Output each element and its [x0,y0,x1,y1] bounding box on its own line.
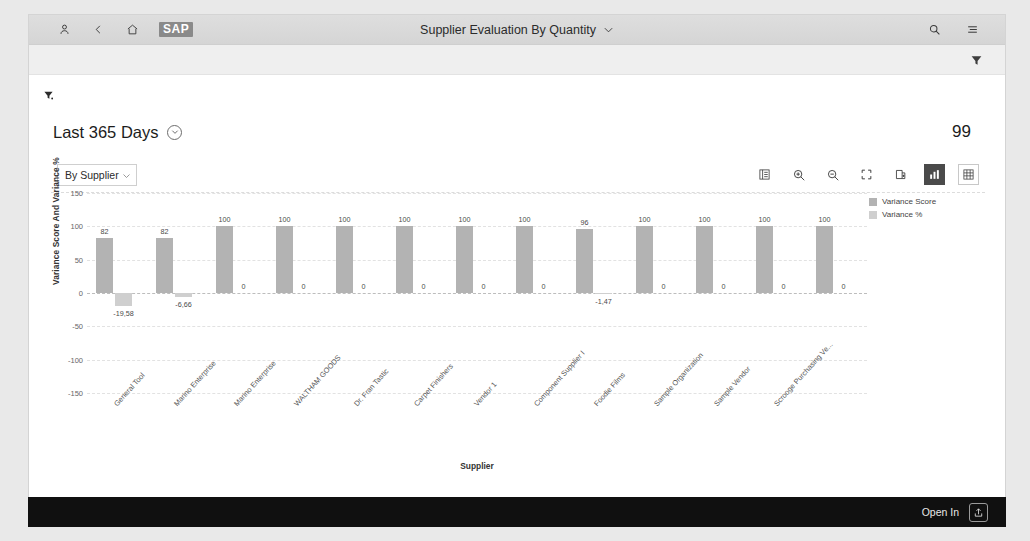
y-axis-tick-label: 150 [53,189,83,198]
bar-variance-score[interactable] [396,226,413,293]
fullscreen-icon[interactable] [856,164,877,185]
details-legend-icon[interactable] [754,164,775,185]
bar-variance-score[interactable] [816,226,833,293]
shell-header: SAP Supplier Evaluation By Quantity [29,15,1005,45]
legend-color-swatch [869,198,877,206]
sap-logo[interactable]: SAP [159,22,193,37]
bar-variance-score[interactable] [696,226,713,293]
y-axis-tick-label: 100 [53,222,83,231]
bar-value-label: 0 [842,282,846,291]
legend-item[interactable]: Variance % [869,210,977,219]
bar-value-label: 100 [219,215,231,224]
filter-settings-icon[interactable] [43,87,54,105]
page-title: Supplier Evaluation By Quantity [420,23,596,37]
chart-card: By Supplier [51,163,985,475]
period-selector[interactable]: Last 365 Days [53,123,182,142]
bar-variance-score[interactable] [636,226,653,293]
chart-toolbar-icons [754,164,985,185]
y-axis-tick-label: -100 [53,355,83,364]
page-content: Last 365 Days 99 By Supplier [29,75,1005,489]
legend-label: Variance Score [882,197,936,206]
bar-value-label: 100 [399,215,411,224]
bar-value-label: -19,58 [113,309,133,318]
bar-value-label: 100 [639,215,651,224]
legend-label: Variance % [882,210,922,219]
period-label: Last 365 Days [53,123,158,142]
bar-variance-percent[interactable] [175,293,192,297]
screenshot-root: SAP Supplier Evaluation By Quantity [0,0,1030,541]
bar-variance-score[interactable] [276,226,293,293]
bar-value-label: 100 [339,215,351,224]
filter-indicator-row [29,75,1005,109]
bar-variance-score[interactable] [96,238,113,293]
bar-value-label: 0 [242,282,246,291]
chart-legend: Variance ScoreVariance % [869,197,977,223]
legend-item[interactable]: Variance Score [869,197,977,206]
title-chevron-down-icon[interactable] [603,23,614,37]
bar-variance-score[interactable] [336,226,353,293]
dimension-select-value: By Supplier [65,169,119,181]
bar-value-label: 0 [362,282,366,291]
shell-header-left: SAP [29,21,193,39]
open-in-label[interactable]: Open In [922,506,959,518]
bar-value-label: 0 [422,282,426,291]
share-upload-icon[interactable] [969,503,988,522]
y-axis-tick-label: 50 [53,255,83,264]
bottom-action-bar: Open In [28,497,1006,527]
bar-value-label: 0 [542,282,546,291]
menu-list-icon[interactable] [963,21,981,39]
bar-value-label: 82 [101,227,109,236]
chart-plot-area: Variance Score And Variance % 150100500-… [51,193,985,471]
x-axis-tick-labels: General ToolMarino EnterpriseMarino Ente… [87,398,867,468]
bar-value-label: 100 [519,215,531,224]
dimension-select[interactable]: By Supplier [57,164,137,186]
bar-variance-score[interactable] [576,229,593,293]
bar-variance-percent[interactable] [595,293,612,294]
bar-value-label: 0 [662,282,666,291]
app-window: SAP Supplier Evaluation By Quantity [28,14,1006,524]
back-chevron-icon[interactable] [89,21,107,39]
chart-view-icon[interactable] [924,164,945,185]
bar-value-label: 96 [581,218,589,227]
period-chevron-down-icon[interactable] [167,125,182,140]
y-axis-tick-label: 0 [53,289,83,298]
bar-variance-percent[interactable] [115,293,132,306]
bar-value-label: 0 [782,282,786,291]
filter-bar-strip [29,45,1005,75]
bar-variance-score[interactable] [756,226,773,293]
filter-funnel-icon[interactable] [970,53,983,71]
bar-value-label: 0 [722,282,726,291]
bar-variance-score[interactable] [156,238,173,293]
user-icon[interactable] [55,21,73,39]
bar-value-label: 100 [699,215,711,224]
search-icon[interactable] [925,21,943,39]
bar-value-label: 100 [279,215,291,224]
shell-header-right [925,15,981,44]
bar-value-label: 82 [161,227,169,236]
table-view-icon[interactable] [958,164,979,185]
zoom-out-icon[interactable] [822,164,843,185]
bar-variance-score[interactable] [456,226,473,293]
x-axis-title: Supplier [87,461,867,471]
legend-color-swatch [869,211,877,219]
bar-value-label: 100 [819,215,831,224]
zoom-in-icon[interactable] [788,164,809,185]
y-axis-tick-label: -150 [53,389,83,398]
bar-value-label: 0 [302,282,306,291]
bar-value-label: -6,66 [175,300,191,309]
y-axis-tick-label: -50 [53,322,83,331]
chart-toolbar: By Supplier [51,163,985,193]
dimension-chevron-down-icon [122,169,131,181]
bar-variance-score[interactable] [216,226,233,293]
kpi-header-row: Last 365 Days 99 [29,109,1005,155]
bar-value-label: 100 [759,215,771,224]
bar-value-label: -1,47 [595,297,611,306]
bar-value-label: 0 [482,282,486,291]
export-share-icon[interactable] [890,164,911,185]
bar-value-label: 100 [459,215,471,224]
home-icon[interactable] [123,21,141,39]
bar-variance-score[interactable] [516,226,533,293]
record-count: 99 [952,122,983,142]
